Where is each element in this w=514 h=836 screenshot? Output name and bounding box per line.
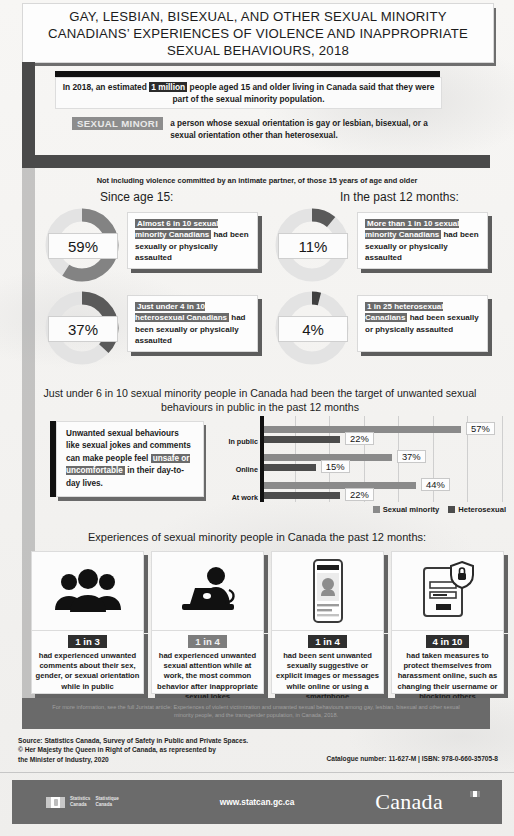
callout-highlight-37: Just under 4 in 10 heterosexual Canadian… (135, 302, 229, 322)
bar-label-in-public-heterosexual: 22% (345, 432, 374, 445)
left-accent-bar (22, 62, 35, 168)
bar-at-work-sexual-minority (264, 482, 416, 489)
column-heading-past-12-months: In the past 12 months: (340, 190, 459, 204)
donut-value-37: 37% (48, 316, 118, 342)
card-2-text: had experienced unwanted sexual attentio… (152, 651, 263, 702)
donut-value-59: 59% (48, 233, 118, 259)
legend-item-heterosexual: Heterosexual (448, 505, 506, 514)
intro-text-before: In 2018, an estimated (63, 82, 150, 92)
donut-chart-4: 4% (272, 288, 352, 368)
definition-term: SEXUAL MINORI (72, 117, 163, 130)
page-title: GAY, LESBIAN, BISEXUAL, AND OTHER SEXUAL… (22, 3, 494, 63)
card-4-icon-box (391, 551, 504, 631)
source-line-2: © Her Majesty the Queen in Right of Cana… (18, 745, 248, 754)
legend-swatch-sexual-minority (373, 506, 380, 513)
chart-category-in-public: In public (214, 437, 258, 446)
bar-in-public-heterosexual (264, 436, 340, 443)
card-2 (151, 551, 264, 631)
source-line-3: the Minister of Industry, 2020 (18, 755, 248, 764)
donut-chart-37: 37% (42, 288, 122, 368)
bar-label-at-work-sexual-minority: 44% (421, 478, 450, 491)
intro-statistic-box: In 2018, an estimated 1 million people a… (55, 77, 442, 109)
card-2-icon-box (151, 551, 264, 631)
donut-value-11: 11% (278, 233, 348, 259)
definition-row: SEXUAL MINORI a person whose sexual orie… (72, 117, 452, 141)
cards-section-heading: Experiences of sexual minority people in… (0, 531, 514, 543)
horizontal-accent-bar (22, 155, 490, 168)
person-at-laptop-icon (172, 566, 244, 616)
card-2-text-box: 1 in 4 had experienced unwanted sexual a… (151, 630, 264, 694)
bar-label-at-work-heterosexual: 22% (345, 488, 374, 501)
canada-wordmark-text: Canada (375, 789, 443, 815)
source-block: Source: Statistics Canada, Survey of Saf… (18, 736, 248, 764)
bar-label-online-sexual-minority: 37% (397, 450, 426, 463)
assault-section-note: Not including violence committed by an i… (0, 176, 514, 185)
smartphone-message-icon (308, 558, 348, 624)
card-3-ratio: 1 in 4 (308, 635, 347, 648)
bar-label-online-heterosexual: 15% (321, 460, 350, 473)
card-3 (271, 551, 384, 631)
group-of-people-icon (52, 568, 124, 614)
chart-title: Just under 6 in 10 sexual minority peopl… (40, 386, 480, 414)
callout-11: More than 1 in 10 sexual minority Canadi… (357, 212, 488, 269)
card-2-ratio: 1 in 4 (188, 635, 227, 648)
chart-category-at-work: At work (214, 493, 258, 502)
catalogue-number: Catalogue number: 11-627-M | ISBN: 978-0… (326, 755, 498, 762)
canada-wordmark-flag-icon (470, 791, 480, 797)
callout-highlight-59: Almost 6 in 10 sexual minority Canadians (135, 219, 218, 239)
bar-chart: In public Online At work 57%22%37%15%44%… (214, 416, 506, 502)
login-shield-lock-icon (419, 560, 477, 622)
intro-highlight: 1 million (149, 82, 187, 92)
bar-online-heterosexual (264, 464, 316, 471)
card-1-text: had experienced unwanted comments about … (32, 651, 143, 692)
footer-bar: Statistics Canada Statistique Canada www… (12, 780, 502, 824)
card-3-text-box: 1 in 4 had been sent unwanted sexually s… (271, 630, 384, 694)
card-1-text-box: 1 in 3 had experienced unwanted comments… (31, 630, 144, 694)
chart-category-online: Online (214, 465, 258, 474)
card-4-text: had taken measures to protect themselves… (392, 651, 503, 702)
quote-box: Unwanted sexual behaviours like sexual j… (56, 421, 204, 497)
column-heading-since-age-15: Since age 15: (100, 190, 173, 204)
more-info-strip: For more information, see the full Juris… (22, 698, 490, 729)
card-3-icon-box (271, 551, 384, 631)
donut-chart-11: 11% (272, 205, 352, 285)
callout-59: Almost 6 in 10 sexual minority Canadians… (127, 212, 258, 269)
bar-at-work-heterosexual (264, 492, 340, 499)
card-4-text-box: 4 in 10 had taken measures to protect th… (391, 630, 504, 694)
intro-text-after: people aged 15 and older living in Canad… (172, 82, 434, 104)
more-info-text: For more information, see the full Juris… (22, 698, 490, 719)
bar-label-in-public-sexual-minority: 57% (466, 422, 495, 435)
page-title-text: GAY, LESBIAN, BISEXUAL, AND OTHER SEXUAL… (23, 8, 493, 59)
donut-value-4: 4% (278, 316, 348, 342)
chart-legend: Sexual minority Heterosexual (214, 505, 506, 514)
chart-y-axis (260, 416, 264, 502)
card-1 (31, 551, 144, 631)
card-1-icon-box (31, 551, 144, 631)
footer-divider (0, 772, 514, 773)
card-4-ratio: 4 in 10 (426, 635, 470, 648)
card-4 (391, 551, 504, 631)
legend-item-sexual-minority: Sexual minority (373, 505, 440, 514)
definition-text: a person whose sexual orientation is gay… (170, 117, 452, 141)
card-1-ratio: 1 in 3 (68, 635, 107, 648)
callout-37: Just under 4 in 10 heterosexual Canadian… (127, 295, 258, 352)
card-3-text: had been sent unwanted sexually suggesti… (272, 651, 383, 702)
legend-label-sexual-minority: Sexual minority (383, 505, 440, 514)
source-line-1: Source: Statistics Canada, Survey of Saf… (18, 736, 248, 745)
canada-wordmark: Canada (401, 789, 480, 815)
legend-label-heterosexual: Heterosexual (458, 505, 506, 514)
callout-4: 1 in 25 heterosexual Canadians had been … (357, 295, 488, 352)
legend-swatch-heterosexual (448, 506, 455, 513)
donut-chart-59: 59% (42, 205, 122, 285)
